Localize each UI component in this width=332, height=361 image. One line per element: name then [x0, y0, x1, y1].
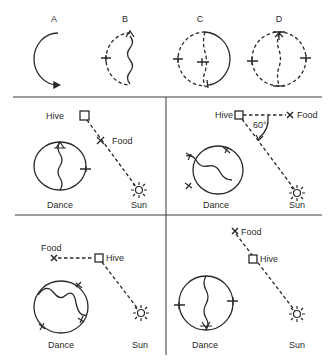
arrowhead-icon — [80, 166, 91, 172]
dance-label: Dance — [192, 340, 218, 350]
bee-dance-diagram: A B C D Hive Food — [0, 0, 332, 361]
arrowhead-icon — [186, 153, 193, 160]
hive-label: Hive — [260, 254, 278, 264]
panel-d: D — [247, 14, 311, 86]
sun-icon — [289, 185, 305, 201]
panel-a: A — [34, 14, 58, 85]
food-hive-sun-path — [236, 234, 295, 311]
scenario-food-away-from-sun: Food Hive Sun Dance — [174, 227, 305, 350]
dance-figure-eight — [193, 146, 243, 194]
sun-label: Sun — [132, 340, 148, 350]
food-marker-icon — [51, 255, 57, 261]
panel-c-label: C — [197, 14, 204, 24]
arrowhead-icon — [227, 297, 238, 305]
arrowhead-icon — [273, 32, 285, 40]
dashed-waggle-run — [278, 33, 281, 85]
solid-right-loop — [205, 32, 230, 85]
waggle-run-line — [204, 276, 208, 330]
dashed-figure-eight — [252, 32, 306, 86]
food-label: Food — [297, 110, 318, 120]
panel-a-label: A — [51, 14, 57, 24]
hive-label: Hive — [46, 111, 64, 121]
sun-icon — [289, 306, 305, 322]
arrowhead-icon — [300, 55, 311, 62]
arrowhead-icon — [174, 302, 185, 309]
arrowhead-icon — [78, 316, 84, 323]
hive-sun-path — [242, 119, 295, 190]
hive-label: Hive — [215, 110, 233, 120]
dance-label: Dance — [48, 340, 74, 350]
sun-icon — [131, 182, 147, 198]
panel-c: C — [173, 14, 230, 88]
arrowhead-icon — [197, 58, 209, 66]
hive-sun-path — [87, 120, 137, 188]
food-marker-icon — [232, 228, 238, 234]
hive-icon — [95, 254, 103, 262]
hive-label: Hive — [106, 253, 124, 263]
arrowhead-icon — [200, 322, 212, 328]
sun-icon — [133, 305, 149, 321]
waggle-run-line — [128, 36, 133, 84]
arrowhead-icon — [101, 55, 111, 62]
waggle-run-line — [58, 142, 62, 190]
food-marker-icon — [97, 137, 104, 144]
arrowhead-icon — [173, 56, 183, 63]
hive-icon — [235, 111, 243, 119]
round-arc-arrow-icon — [34, 33, 58, 85]
angle-label: 60° — [253, 120, 267, 130]
food-label: Food — [41, 243, 62, 253]
dance-label: Dance — [203, 200, 229, 210]
arrowhead-icon — [247, 57, 258, 65]
panel-b: B — [101, 14, 134, 85]
arrowhead-icon — [205, 80, 211, 88]
hive-icon — [80, 111, 89, 120]
panel-d-label: D — [276, 14, 283, 24]
food-label: Food — [112, 136, 133, 146]
sun-label: Sun — [289, 340, 305, 350]
waggle-run-line — [38, 288, 86, 315]
panel-b-label: B — [122, 14, 128, 24]
hive-sun-path — [102, 262, 138, 309]
scenario-food-left-of-hive: Food Hive Sun Dance — [34, 243, 149, 350]
scenario-food-toward-sun: Hive Food Sun Dance — [34, 111, 147, 210]
food-marker-icon — [287, 112, 293, 118]
dashed-waggle-run — [204, 32, 207, 86]
scenario-food-60deg: Hive Food 60° Sun Dance — [185, 110, 318, 210]
dashed-return-arc — [106, 33, 130, 85]
sun-label: Sun — [131, 200, 147, 210]
hive-icon — [249, 255, 257, 263]
sun-label: Sun — [289, 200, 305, 210]
food-label: Food — [241, 227, 262, 237]
arrowhead-icon — [185, 183, 192, 189]
dance-label: Dance — [47, 200, 73, 210]
